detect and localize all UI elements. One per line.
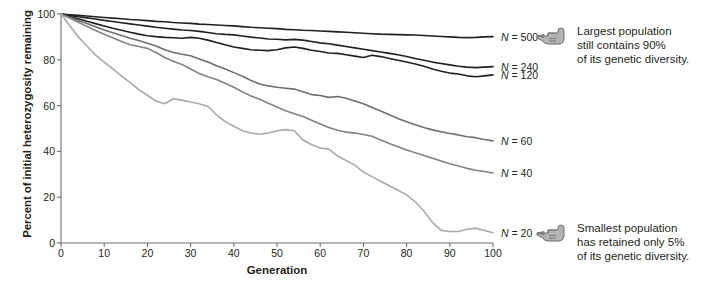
y-tick-label: 20	[21, 191, 55, 203]
y-tick-label: 100	[21, 8, 55, 20]
x-tick-label: 30	[171, 247, 211, 259]
series-line-500	[61, 14, 493, 38]
x-tick-label: 100	[473, 247, 513, 259]
series-label-symbol: N	[501, 135, 509, 147]
x-tick-label: 60	[300, 247, 340, 259]
series-label-20: N = 20	[501, 227, 532, 239]
pointing-hand-icon	[536, 25, 570, 50]
series-line-240	[61, 14, 493, 68]
x-tick-label: 70	[343, 247, 383, 259]
series-label-40: N = 40	[501, 167, 532, 179]
plot-area	[61, 14, 493, 243]
series-label-symbol: N	[501, 167, 509, 179]
series-label-symbol: N	[501, 31, 509, 43]
x-tick-label: 0	[41, 247, 81, 259]
heterozygosity-decay-figure: Percent of initial heterozygosity remain…	[0, 0, 713, 286]
y-tick-label: 60	[21, 100, 55, 112]
series-label-500: N = 500	[501, 31, 538, 43]
annotation-text: Smallest population has retained only 5%…	[577, 221, 689, 264]
series-line-40	[61, 14, 493, 173]
series-line-20	[61, 14, 493, 233]
y-axis-tick-labels: 020406080100	[17, 14, 55, 243]
x-tick-label: 50	[257, 247, 297, 259]
x-tick-label: 20	[127, 247, 167, 259]
series-label-120: N = 120	[501, 69, 538, 81]
annotation-text: Largest population still contains 90% of…	[577, 24, 689, 67]
x-axis-tick-labels: 0102030405060708090100	[61, 247, 493, 263]
pointing-hand-icon	[536, 222, 570, 247]
plot-svg	[61, 14, 493, 243]
x-tick-label: 10	[84, 247, 124, 259]
y-tick-label: 40	[21, 145, 55, 157]
series-label-symbol: N	[501, 69, 509, 81]
series-line-60	[61, 14, 493, 141]
x-tick-label: 90	[430, 247, 470, 259]
annotation-smallest-population: Smallest population has retained only 5%…	[536, 221, 713, 264]
x-axis-label: Generation	[61, 264, 493, 276]
series-label-symbol: N	[501, 227, 509, 239]
x-tick-label: 80	[387, 247, 427, 259]
y-tick-label: 80	[21, 54, 55, 66]
x-tick-label: 40	[214, 247, 254, 259]
annotation-largest-population: Largest population still contains 90% of…	[536, 24, 713, 67]
series-label-60: N = 60	[501, 135, 532, 147]
